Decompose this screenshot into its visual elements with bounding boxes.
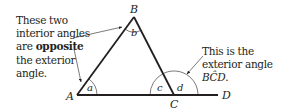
left-annotation: These two interior angles are opposite t…: [16, 14, 90, 80]
left-annotation-line: angle.: [16, 67, 90, 80]
emphasis-opposite: opposite: [36, 40, 84, 52]
vertex-label-b: B: [129, 3, 138, 16]
right-annotation-line: This is the: [202, 45, 302, 58]
arrow-to-angle-d: [187, 56, 203, 74]
vertex-label-a: A: [65, 90, 74, 103]
right-annotation-period: .: [225, 71, 228, 83]
right-annotation-text: exterior angle: [202, 58, 273, 70]
side-bc: [134, 17, 174, 95]
angle-label-d: d: [177, 82, 183, 93]
left-annotation-line: are opposite: [16, 40, 90, 53]
vertex-label-c: C: [170, 98, 179, 111]
angle-label-a: a: [87, 82, 93, 93]
left-annotation-line: interior angles: [16, 27, 90, 40]
left-annotation-line: the exterior: [16, 54, 90, 67]
vertex-label-d: D: [221, 89, 231, 102]
right-annotation: This is the exterior angle BĈD.: [202, 45, 302, 85]
left-annotation-line: These two: [16, 14, 90, 27]
angle-label-b: b: [131, 27, 137, 38]
right-annotation-line: exterior angle BĈD.: [202, 58, 302, 84]
angle-label-c: c: [157, 82, 163, 93]
angle-name-bcd: BĈD: [202, 71, 225, 83]
left-annotation-text: are: [16, 40, 36, 52]
